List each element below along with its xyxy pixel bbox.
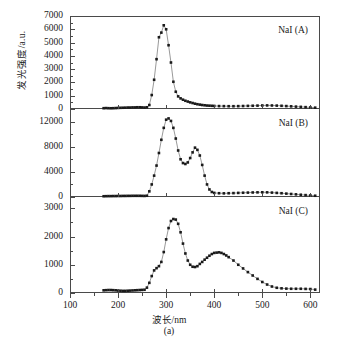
y-tick [70,16,75,17]
y-tick-label: 7000 [44,11,63,21]
panel-b-label: NaI (B) [279,118,308,128]
y-tick-label: 3000 [44,64,63,74]
x-tick [118,293,119,298]
y-tick-label: 12000 [39,117,63,127]
y-tick-minor [70,159,73,160]
y-tick-minor [70,222,73,223]
y-tick-label: 8000 [44,142,63,152]
x-tick-label: 300 [159,300,173,310]
x-tick-label: 500 [255,300,269,310]
y-tick [70,147,75,148]
y-tick [70,82,75,83]
y-tick-label: 6000 [44,25,63,35]
y-tick-label: 3000 [44,204,63,214]
panel-nai-a: NaI (A) 01000200030004000500060007000 [70,16,320,109]
y-tick-label: 0 [58,192,63,202]
x-tick [166,293,167,298]
y-tick-label: 4000 [44,51,63,61]
y-tick-minor [70,36,73,37]
panel-nai-b: NaI (B) 04000800012000 [70,109,320,197]
y-tick-minor [70,89,73,90]
y-tick-minor [70,279,73,280]
y-tick [70,208,75,209]
x-axis-title-text: 波长/nm [152,312,187,326]
y-tick-minor [70,251,73,252]
y-tick-label: 2000 [44,78,63,88]
y-tick-minor [70,76,73,77]
y-axis-title-text: 发光强度/a.u. [14,10,28,110]
figure-caption: (a) [0,326,338,336]
figure-caption-text: (a) [164,326,175,336]
x-tick-label: 600 [303,300,317,310]
x-axis-title: 波长/nm [0,312,338,326]
x-tick [70,293,71,298]
y-tick-label: 4000 [44,167,63,177]
x-tick-label: 200 [111,300,125,310]
y-tick [70,237,75,238]
y-tick [70,56,75,57]
y-tick-label: 1000 [44,91,63,101]
y-tick-minor [70,184,73,185]
y-tick [70,172,75,173]
panel-c-label: NaI (C) [279,206,308,216]
y-tick-label: 2000 [44,232,63,242]
x-tick-minor [190,293,191,296]
y-tick [70,29,75,30]
y-tick [70,122,75,123]
x-axis-ticks: 100200300400500600 [70,293,320,309]
y-tick-label: 0 [58,288,63,298]
y-tick-minor [70,49,73,50]
y-tick [70,69,75,70]
y-tick-label: 1000 [44,260,63,270]
y-axis-title: 发光强度/a.u. [14,10,28,110]
x-tick [214,293,215,298]
figure-emission-spectra: 发光强度/a.u. NaI (A) 0100020003000400050006… [0,0,338,343]
y-tick-minor [70,23,73,24]
y-tick [70,96,75,97]
x-tick-label: 100 [63,300,77,310]
x-tick [310,293,311,298]
x-tick-minor [238,293,239,296]
y-tick-label: 0 [58,104,63,114]
x-tick-minor [142,293,143,296]
panel-a-label: NaI (A) [278,25,308,35]
x-tick-label: 400 [207,300,221,310]
x-tick-minor [286,293,287,296]
y-tick [70,43,75,44]
y-tick-minor [70,134,73,135]
y-tick-minor [70,102,73,103]
y-tick-label: 5000 [44,38,63,48]
y-tick [70,265,75,266]
x-tick-minor [94,293,95,296]
panel-nai-c: NaI (C) 0100020003000 [70,197,320,293]
x-tick [262,293,263,298]
y-tick-minor [70,63,73,64]
